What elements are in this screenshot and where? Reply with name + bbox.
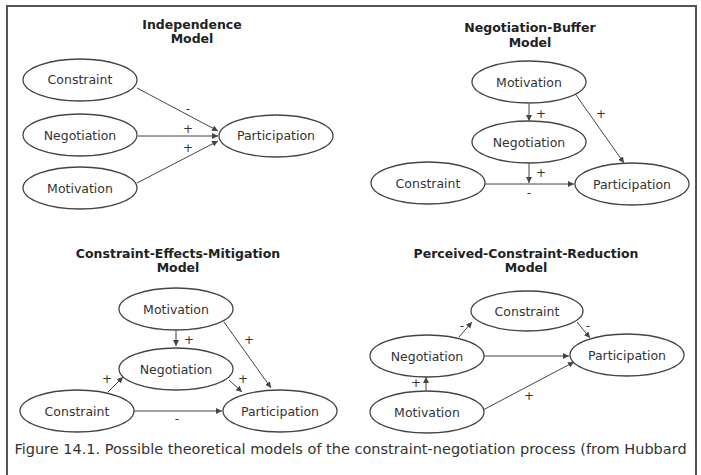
model-3-title-line2: Model — [157, 260, 200, 275]
label-participation: Participation — [593, 177, 671, 192]
edge-sign: + — [524, 389, 534, 403]
edge-sign: + — [102, 372, 112, 386]
edge-sign: - — [527, 186, 531, 200]
figure-caption: Figure 14.1. Possible theoretical models… — [0, 441, 701, 457]
edge-motivation-participation — [137, 141, 218, 183]
edge-sign: - — [460, 319, 464, 333]
label-constraint: Constraint — [48, 72, 113, 87]
label-motivation: Motivation — [47, 181, 113, 196]
edge-sign: + — [238, 372, 248, 386]
edge-sign: + — [183, 141, 193, 155]
edge-sign: + — [244, 333, 254, 347]
edge-motivation-participation — [576, 95, 624, 163]
model-4-title-line2: Model — [505, 260, 548, 275]
label-participation: Participation — [237, 128, 315, 143]
label-negotiation: Negotiation — [493, 135, 566, 150]
model-1-title-line1: Independence — [142, 17, 242, 32]
edge-constraint-participation — [137, 88, 218, 131]
model-3-title-line1: Constraint-Effects-Mitigation — [76, 246, 280, 261]
edge-sign: - — [175, 412, 179, 426]
edge-sign: - — [186, 102, 190, 116]
label-constraint: Constraint — [396, 176, 461, 191]
label-motivation: Motivation — [496, 75, 562, 90]
label-motivation: Motivation — [143, 302, 209, 317]
label-constraint: Constraint — [45, 404, 110, 419]
model-1-title-line2: Model — [171, 31, 214, 46]
label-constraint: Constraint — [495, 304, 560, 319]
edge-sign: + — [596, 107, 606, 121]
edge-sign: + — [536, 107, 546, 121]
label-motivation: Motivation — [394, 405, 460, 420]
edge-sign: + — [536, 166, 546, 180]
label-negotiation: Negotiation — [44, 128, 117, 143]
label-negotiation: Negotiation — [140, 362, 213, 377]
label-negotiation: Negotiation — [391, 349, 464, 364]
label-participation: Participation — [241, 404, 319, 419]
model-4-title-line1: Perceived-Constraint-Reduction — [414, 246, 639, 261]
model-2-title-line2: Model — [509, 35, 552, 50]
label-participation: Participation — [588, 348, 666, 363]
edge-sign: + — [184, 333, 194, 347]
edge-sign: + — [411, 376, 421, 390]
edge-sign: + — [183, 122, 193, 136]
model-2-title-line1: Negotiation-Buffer — [464, 20, 596, 35]
edge-sign: - — [586, 319, 590, 333]
